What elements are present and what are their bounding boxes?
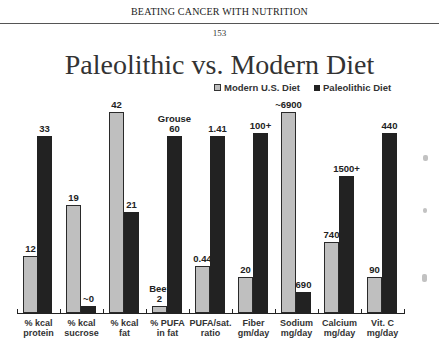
x-axis-tick [189, 309, 190, 313]
category-label-line: in fat [146, 328, 189, 338]
category-label-line: mg/day [361, 328, 404, 338]
category-label-line: ratio [189, 328, 232, 338]
category-label-line: Calcium [318, 318, 361, 328]
bar-value-label: ~0 [69, 294, 109, 304]
bar-paleo [382, 133, 397, 313]
category-label-line: mg/day [275, 328, 318, 338]
bar-value-label: 100+ [241, 121, 281, 131]
bar-value-label: 690 [284, 280, 324, 290]
category-label-line: % kcal [103, 318, 146, 328]
category-label-line: PUFA/sat. [189, 318, 232, 328]
category-label: Vit. Cmg/day [361, 318, 404, 338]
scan-speck [423, 155, 428, 161]
category-label: Sodiummg/day [275, 318, 318, 338]
category-label-line: fat [103, 328, 146, 338]
bar-paleo [210, 136, 225, 313]
bar-paleo [339, 176, 354, 313]
x-axis-tick [318, 309, 319, 313]
category-label-line: Fiber [232, 318, 275, 328]
bar-paleo [81, 306, 96, 313]
bar-paleo [37, 136, 52, 313]
category-label-line: Vit. C [361, 318, 404, 328]
plot-area: 123319~042212Beef60Grouse0.441.4120100+~… [0, 0, 439, 356]
category-label: PUFA/sat.ratio [189, 318, 232, 338]
bar-value-label: 42 [97, 100, 137, 110]
category-label-line: protein [17, 328, 60, 338]
category-label: % kcalfat [103, 318, 146, 338]
bar-modern [109, 112, 124, 313]
category-label-line: mg/day [318, 328, 361, 338]
x-axis-tick [275, 309, 276, 313]
category-label-line: % PUFA [146, 318, 189, 328]
bar-modern [367, 277, 382, 313]
scan-speck [423, 208, 427, 213]
bar-value-label: 33 [25, 124, 65, 134]
category-label-line: Sodium [275, 318, 318, 328]
bar-value-label: 1500+ [327, 164, 367, 174]
bar-modern [238, 277, 253, 313]
x-axis-tick [361, 309, 362, 313]
bar-note-label: Grouse [155, 114, 195, 124]
scan-speck [422, 274, 427, 282]
bar-paleo [167, 136, 182, 313]
bar-value-label: 1.41 [198, 124, 238, 134]
category-label-line: sucrose [60, 328, 103, 338]
category-label: % kcalprotein [17, 318, 60, 338]
bar-paleo [124, 212, 139, 313]
bar-value-label: 440 [370, 121, 410, 131]
bar-modern [324, 242, 339, 313]
x-axis-tick [404, 309, 405, 313]
bar-value-label: 60 [155, 124, 195, 134]
bar-modern [23, 256, 38, 313]
bar-paleo [253, 133, 268, 313]
x-axis-tick [60, 309, 61, 313]
category-label-line: % kcal [17, 318, 60, 328]
x-axis-tick [232, 309, 233, 313]
category-label: Calciummg/day [318, 318, 361, 338]
bar-value-label: ~6900 [269, 100, 309, 110]
category-label: % kcalsucrose [60, 318, 103, 338]
bar-modern [152, 306, 167, 313]
category-label: % PUFAin fat [146, 318, 189, 338]
category-label: Fibergm/day [232, 318, 275, 338]
x-axis-tick [103, 309, 104, 313]
x-axis [17, 313, 405, 314]
bar-value-label: 21 [112, 200, 152, 210]
bar-value-label: 19 [54, 193, 94, 203]
x-axis-tick [17, 309, 18, 313]
x-axis-tick [146, 309, 147, 313]
category-label-line: gm/day [232, 328, 275, 338]
bar-modern [195, 266, 210, 313]
bar-paleo [296, 292, 311, 313]
category-label-line: % kcal [60, 318, 103, 328]
